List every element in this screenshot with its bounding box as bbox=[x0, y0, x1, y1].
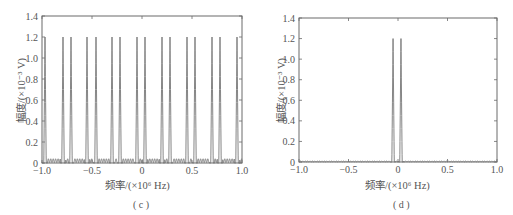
x-axis-label-c: 频率/(×10⁶ Hz) bbox=[105, 177, 170, 192]
x-tick-label: −0.5 bbox=[83, 165, 101, 176]
x-tick-label: 0 bbox=[140, 165, 145, 176]
x-tick-label: −1.0 bbox=[33, 165, 51, 176]
y-tick-label: 1.4 bbox=[283, 13, 296, 24]
chart-panel-d: 00.20.40.60.81.01.21.4−1.0−0.500.51.0 幅度… bbox=[258, 0, 513, 215]
panel-caption-c: ( c ) bbox=[133, 199, 149, 210]
panel-caption-d: ( d ) bbox=[393, 199, 410, 210]
x-tick-label: 0.5 bbox=[186, 165, 199, 176]
spectrum-line bbox=[299, 39, 497, 162]
x-tick-label: 0 bbox=[396, 164, 401, 175]
plot-frame bbox=[299, 18, 497, 162]
chart-panel-c: 00.20.40.60.81.01.21.4−1.0−0.500.51.0 幅度… bbox=[0, 0, 256, 215]
x-tick-label: −1.0 bbox=[290, 164, 308, 175]
x-tick-label: 1.0 bbox=[491, 164, 504, 175]
y-tick-label: 1.4 bbox=[26, 11, 39, 22]
x-axis-label-d: 频率/(×10⁶ Hz) bbox=[365, 177, 430, 192]
x-tick-label: 0.5 bbox=[441, 164, 454, 175]
x-tick-label: −0.5 bbox=[339, 164, 357, 175]
spectrum-line bbox=[42, 37, 242, 163]
y-axis-label-c: 幅度/(×10⁻³ V) bbox=[13, 41, 28, 141]
y-axis-label-d: 幅度/(×10⁻³ V) bbox=[273, 41, 288, 141]
x-tick-label: 1.0 bbox=[236, 165, 249, 176]
